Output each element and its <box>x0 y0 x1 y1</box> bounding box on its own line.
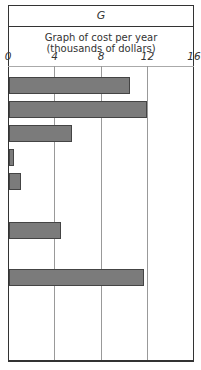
x-tick-12: 12 <box>141 50 154 62</box>
x-tick-4: 4 <box>51 50 58 62</box>
x-tick-8: 8 <box>98 50 105 62</box>
bar-4 <box>9 149 14 166</box>
bar-3 <box>9 125 72 142</box>
chart-subtitle-line1: Graph of cost per year <box>8 32 194 43</box>
bar-2 <box>9 101 147 118</box>
bar-7 <box>9 222 61 239</box>
bar-1 <box>9 77 130 94</box>
x-tick-0: 0 <box>5 50 12 62</box>
chart-bottom-border <box>8 360 194 362</box>
x-tick-16: 16 <box>187 50 200 62</box>
bar-5 <box>9 173 21 190</box>
chart-title: G <box>8 5 194 27</box>
bar-9 <box>9 269 144 286</box>
